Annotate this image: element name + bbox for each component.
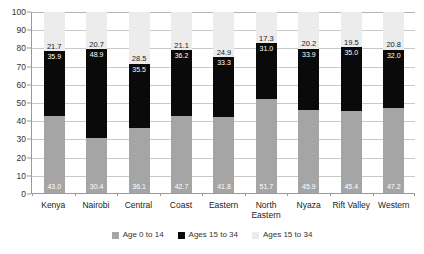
- bar-value-label-middle: 35.0: [344, 49, 358, 56]
- plot-area: 21.735.943.020.748.930.428.535.536.121.1…: [31, 12, 415, 194]
- x-axis-label-line: Eastern: [245, 210, 288, 220]
- bar-value-label-top: 20.8: [386, 41, 401, 49]
- bar-segment-bottom[interactable]: 30.4: [86, 138, 107, 193]
- legend-label: Ages 15 to 34: [263, 231, 312, 239]
- bar-segment-bottom[interactable]: 51.7: [256, 99, 277, 193]
- bar-value-label-middle: 35.9: [47, 53, 61, 60]
- bar-value-label-top: 24.9: [217, 49, 232, 57]
- x-axis-label-line: Western: [373, 200, 416, 210]
- bar-slot: 21.735.943.0: [33, 12, 75, 193]
- bar-segment-top[interactable]: 20.7: [86, 12, 107, 49]
- legend-swatch-icon: [178, 232, 185, 239]
- bar-stack[interactable]: 20.748.930.4: [86, 12, 107, 193]
- bar-segment-bottom[interactable]: 36.1: [129, 128, 150, 193]
- stacked-bar-chart: 1009080706050403020100 21.735.943.020.74…: [0, 0, 424, 254]
- bar-segment-bottom[interactable]: 42.7: [171, 116, 192, 193]
- x-axis-tick-mark: [160, 193, 161, 196]
- legend-swatch-icon: [252, 232, 259, 239]
- bar-segment-middle[interactable]: 35.9: [44, 51, 65, 116]
- bar-segment-top[interactable]: 21.1: [171, 12, 192, 50]
- x-axis-label-line: Coast: [160, 200, 203, 210]
- bar-segment-top[interactable]: 17.3: [256, 12, 277, 43]
- bar-value-label-top: 17.3: [259, 35, 274, 43]
- bar-segment-top[interactable]: 20.8: [383, 12, 404, 50]
- bar-segment-bottom[interactable]: 47.2: [383, 108, 404, 193]
- bar-segment-bottom[interactable]: 43.0: [44, 116, 65, 193]
- bar-segment-top[interactable]: 20.2: [298, 12, 319, 49]
- bar-segment-top[interactable]: 19.5: [341, 12, 362, 47]
- x-axis-tick-mark: [75, 193, 76, 196]
- bar-stack[interactable]: 24.933.341.8: [213, 12, 234, 193]
- y-axis-tick-label: 50: [17, 99, 26, 108]
- bar-segment-middle[interactable]: 32.0: [383, 50, 404, 108]
- bar-value-label-top: 21.7: [47, 43, 62, 51]
- y-axis-tick-label: 10: [17, 172, 26, 181]
- bar-value-label-bottom: 45.4: [344, 183, 358, 190]
- bar-segment-middle[interactable]: 35.5: [129, 64, 150, 128]
- bar-stack[interactable]: 28.535.536.1: [129, 12, 150, 193]
- bar-value-label-top: 20.7: [89, 41, 104, 49]
- bar-slot: 21.136.242.7: [160, 12, 202, 193]
- bar-segment-middle[interactable]: 33.9: [298, 49, 319, 110]
- bar-segment-top[interactable]: 21.7: [44, 12, 65, 51]
- bar-value-label-middle: 35.5: [132, 66, 146, 73]
- bar-group: 21.735.943.020.748.930.428.535.536.121.1…: [33, 12, 415, 193]
- bar-stack[interactable]: 20.832.047.2: [383, 12, 404, 193]
- legend-label: Ages 15 to 34: [189, 231, 238, 239]
- y-axis-tick-label: 90: [17, 26, 26, 35]
- bar-segment-middle[interactable]: 48.9: [86, 49, 107, 138]
- x-axis-tick-mark: [330, 193, 331, 196]
- bar-segment-bottom[interactable]: 45.4: [341, 111, 362, 193]
- bar-segment-middle[interactable]: 31.0: [256, 43, 277, 99]
- bar-value-label-middle: 48.9: [90, 51, 104, 58]
- x-axis-category-label: Nyaza: [287, 196, 330, 226]
- bar-stack[interactable]: 21.136.242.7: [171, 12, 192, 193]
- bar-stack[interactable]: 19.535.045.4: [341, 12, 362, 193]
- bar-segment-bottom[interactable]: 45.9: [298, 110, 319, 193]
- bar-value-label-middle: 32.0: [387, 52, 401, 59]
- bar-segment-middle[interactable]: 33.3: [213, 57, 234, 117]
- y-axis: 1009080706050403020100: [0, 12, 31, 194]
- x-axis-tick-mark: [32, 193, 33, 196]
- bar-value-label-middle: 33.3: [217, 59, 231, 66]
- x-axis-category-label: Rift Valley: [330, 196, 373, 226]
- x-axis-category-label: Eastern: [202, 196, 245, 226]
- legend-item[interactable]: Ages 15 to 34: [252, 231, 312, 239]
- bar-stack[interactable]: 21.735.943.0: [44, 12, 65, 193]
- x-axis-tick-mark: [414, 193, 415, 196]
- x-axis-tick-mark: [245, 193, 246, 196]
- bar-segment-bottom[interactable]: 41.8: [213, 117, 234, 193]
- x-axis-category-label: Central: [117, 196, 160, 226]
- legend-item[interactable]: Ages 15 to 34: [178, 231, 238, 239]
- bar-segment-middle[interactable]: 35.0: [341, 47, 362, 110]
- bar-value-label-bottom: 41.8: [217, 183, 231, 190]
- x-axis-category-label: NorthEastern: [245, 196, 288, 226]
- bar-segment-top[interactable]: 28.5: [129, 12, 150, 64]
- x-axis-category-label: Coast: [160, 196, 203, 226]
- y-axis-tick-label: 30: [17, 135, 26, 144]
- y-axis-tick-label: 60: [17, 81, 26, 90]
- legend-swatch-icon: [112, 232, 119, 239]
- legend-label: Age 0 to 14: [123, 231, 164, 239]
- bar-value-label-bottom: 36.1: [132, 183, 146, 190]
- y-axis-tick-label: 100: [12, 8, 26, 17]
- bar-stack[interactable]: 17.331.051.7: [256, 12, 277, 193]
- bar-slot: 28.535.536.1: [118, 12, 160, 193]
- bar-slot: 20.233.945.9: [288, 12, 330, 193]
- bar-stack[interactable]: 20.233.945.9: [298, 12, 319, 193]
- bar-value-label-bottom: 43.0: [47, 183, 61, 190]
- bar-value-label-middle: 36.2: [175, 52, 189, 59]
- bar-value-label-top: 19.5: [344, 39, 359, 47]
- bar-value-label-bottom: 30.4: [90, 183, 104, 190]
- bar-slot: 20.832.047.2: [373, 12, 415, 193]
- bar-slot: 20.748.930.4: [75, 12, 117, 193]
- x-axis-tick-mark: [373, 193, 374, 196]
- x-axis: KenyaNairobiCentralCoastEasternNorthEast…: [32, 196, 415, 226]
- bar-value-label-bottom: 45.9: [302, 183, 316, 190]
- bar-segment-middle[interactable]: 36.2: [171, 50, 192, 116]
- bar-segment-top[interactable]: 24.9: [213, 12, 234, 57]
- x-axis-category-label: Kenya: [32, 196, 75, 226]
- x-axis-label-line: Nairobi: [75, 200, 118, 210]
- bar-value-label-top: 20.2: [302, 40, 317, 48]
- legend-item[interactable]: Age 0 to 14: [112, 231, 164, 239]
